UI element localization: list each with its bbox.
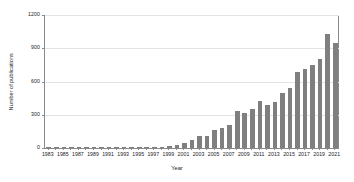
bar [250,109,255,148]
x-tick-mark [101,148,102,150]
x-tick-mark [229,148,230,150]
x-tick-mark [304,148,305,150]
bar [280,93,285,148]
x-tick-mark [274,148,275,150]
x-tick-mark [55,148,56,150]
x-tick-mark [138,148,139,150]
bar [227,125,232,148]
x-tick-label: 1993 [117,152,129,157]
bar [265,105,270,148]
x-tick-mark [206,148,207,150]
x-tick-mark [244,148,245,150]
x-tick-mark [319,148,320,150]
y-tick-label: 900 [31,46,40,51]
x-axis-label: Year [0,166,354,172]
x-tick-mark [153,148,154,150]
x-tick-mark [297,148,298,150]
plot-area [44,15,339,149]
x-tick-label: 2001 [178,152,190,157]
bar [333,43,338,148]
x-tick-mark [131,148,132,150]
bar [318,59,323,148]
x-tick-mark [334,148,335,150]
bar-series [45,15,339,148]
x-tick-mark [199,148,200,150]
x-tick-label: 1989 [87,152,99,157]
x-tick-label: 2005 [208,152,220,157]
bar [273,102,278,148]
y-tick-label: 600 [31,79,40,84]
x-tick-label: 2007 [223,152,235,157]
y-tick-label: 0 [37,145,40,150]
bar [220,128,225,149]
bar [325,34,330,148]
x-tick-mark [168,148,169,150]
x-tick-label: 2017 [298,152,310,157]
x-tick-mark [85,148,86,150]
y-tick-label: 300 [31,112,40,117]
x-tick-label: 1997 [147,152,159,157]
x-tick-mark [183,148,184,150]
x-tick-label: 2011 [253,152,264,157]
bar [197,136,202,148]
publications-bar-chart: Number of publications 03006009001200 19… [0,0,354,182]
bar [310,65,315,148]
x-tick-label: 1985 [57,152,69,157]
bar [242,113,247,148]
y-tick-label: 1200 [28,12,40,17]
x-tick-mark [281,148,282,150]
x-tick-mark [266,148,267,150]
x-tick-mark [312,148,313,150]
x-tick-label: 2009 [238,152,250,157]
x-tick-mark [259,148,260,150]
x-tick-mark [48,148,49,150]
x-tick-mark [289,148,290,150]
x-tick-label: 1995 [132,152,144,157]
x-tick-mark [108,148,109,150]
bar [303,69,308,148]
x-tick-label: 2021 [328,152,340,157]
x-tick-mark [146,148,147,150]
x-tick-mark [116,148,117,150]
x-tick-mark [93,148,94,150]
bar [295,72,300,148]
x-tick-label: 2003 [193,152,205,157]
x-tick-mark [63,148,64,150]
x-tick-mark [70,148,71,150]
x-tick-label: 1999 [163,152,175,157]
x-tick-label: 1991 [102,152,114,157]
x-tick-label: 2013 [268,152,280,157]
bar [258,101,263,148]
x-tick-label: 2019 [313,152,325,157]
x-tick-mark [236,148,237,150]
y-axis-label-container: Number of publications [6,0,18,163]
bar [205,136,210,148]
x-tick-mark [161,148,162,150]
x-tick-mark [221,148,222,150]
x-tick-mark [214,148,215,150]
bar [288,88,293,148]
bar [190,140,195,148]
x-tick-mark [78,148,79,150]
x-tick-mark [191,148,192,150]
x-tick-label: 1987 [72,152,84,157]
bar [235,111,240,148]
x-tick-label: 2015 [283,152,295,157]
x-tick-mark [176,148,177,150]
x-tick-label: 1983 [42,152,54,157]
x-tick-mark [251,148,252,150]
x-tick-mark [327,148,328,150]
y-axis-label: Number of publications [9,53,15,110]
x-tick-mark [123,148,124,150]
bar [212,130,217,148]
